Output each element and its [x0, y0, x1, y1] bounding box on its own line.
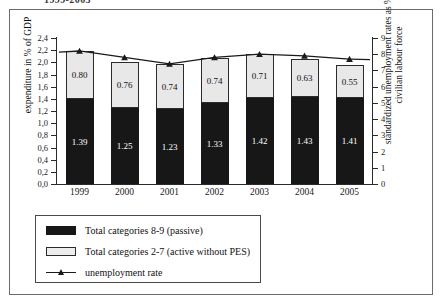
- bar-group[interactable]: 0.761.25: [111, 38, 139, 184]
- chart-figure: 1999-2005 expenditure in % of GDP standa…: [0, 0, 443, 303]
- y-tick-label: 1,8: [37, 71, 48, 79]
- bar-value-label-passive: 1.39: [66, 137, 94, 147]
- y-axis-right-ticks: 0123456789: [373, 0, 413, 303]
- y2-tick-mark: [373, 103, 378, 104]
- legend-label: Total categories 2-7 (active without PES…: [85, 246, 250, 257]
- bar-value-label-active: 0.76: [111, 80, 139, 90]
- bar-group[interactable]: 0.631.43: [291, 38, 319, 184]
- bar-value-label-active: 0.80: [66, 70, 94, 80]
- bar-value-label-active: 0.74: [156, 82, 184, 92]
- x-tick-label: 2002: [193, 187, 237, 197]
- bar-value-label-passive: 1.41: [336, 136, 364, 146]
- y2-tick-mark: [373, 87, 378, 88]
- legend-label: Total categories 8-9 (passive): [85, 225, 203, 236]
- y2-tick-label: 3: [381, 131, 385, 139]
- y2-tick-label: 8: [381, 50, 385, 58]
- bar-group[interactable]: 0.711.42: [246, 38, 274, 184]
- y2-tick-mark: [373, 135, 378, 136]
- legend-item-unemployment: unemployment rate: [46, 264, 162, 280]
- plot-area: 0.801.390.761.250.741.230.741.330.711.42…: [57, 38, 372, 184]
- axis-line-right: [372, 37, 373, 185]
- y-tick-label: 1,6: [37, 83, 48, 91]
- y2-tick-mark: [373, 152, 378, 153]
- light-square-icon: [46, 247, 76, 256]
- chart-legend: Total categories 8-9 (passive) Total cat…: [35, 215, 261, 283]
- bar-value-label-active: 0.55: [336, 77, 364, 87]
- legend-item-active: Total categories 2-7 (active without PES…: [46, 243, 250, 259]
- bar-value-label-active: 0.74: [201, 76, 229, 86]
- bar-value-label-passive: 1.33: [201, 139, 229, 149]
- legend-item-passive: Total categories 8-9 (passive): [46, 222, 203, 238]
- bar-value-label-active: 0.63: [291, 73, 319, 83]
- y-tick-label: 0,2: [37, 168, 48, 176]
- y-tick-label: 1,2: [37, 107, 48, 115]
- x-tick-label: 2003: [238, 187, 282, 197]
- axis-line-bottom: [56, 184, 373, 185]
- bar-group[interactable]: 0.741.33: [201, 38, 229, 184]
- y2-tick-mark: [373, 54, 378, 55]
- y-tick-label: 0,6: [37, 144, 48, 152]
- y2-tick-label: 0: [381, 180, 385, 188]
- legend-label: unemployment rate: [85, 267, 162, 278]
- x-tick-label: 2004: [283, 187, 327, 197]
- y2-tick-label: 1: [381, 164, 385, 172]
- y-tick-label: 2,0: [37, 58, 48, 66]
- bar-group[interactable]: 0.551.41: [336, 38, 364, 184]
- bar-value-label-passive: 1.43: [291, 136, 319, 146]
- y-tick-label: 1,4: [37, 95, 48, 103]
- y2-tick-mark: [373, 119, 378, 120]
- bar-group[interactable]: 0.741.23: [156, 38, 184, 184]
- line-marker-icon: [46, 268, 76, 277]
- y2-tick-mark: [373, 168, 378, 169]
- bar-value-label-passive: 1.23: [156, 142, 184, 152]
- bar-value-label-passive: 1.25: [111, 141, 139, 151]
- y2-tick-label: 5: [381, 99, 385, 107]
- y2-tick-mark: [373, 70, 378, 71]
- y2-tick-label: 2: [381, 148, 385, 156]
- bar-value-label-active: 0.71: [246, 71, 274, 81]
- figure-title: 1999-2005: [44, 0, 244, 6]
- y-tick-label: 2,4: [37, 34, 48, 42]
- y2-tick-label: 9: [381, 34, 385, 42]
- y2-tick-mark: [373, 184, 378, 185]
- x-tick-label: 2005: [328, 187, 372, 197]
- y-tick-label: 2,2: [37, 46, 48, 54]
- y2-tick-label: 6: [381, 83, 385, 91]
- y-tick-label: 0,8: [37, 131, 48, 139]
- dark-square-icon: [46, 226, 76, 235]
- x-tick-label: 1999: [58, 187, 102, 197]
- bar-value-label-passive: 1.42: [246, 136, 274, 146]
- y2-tick-label: 7: [381, 66, 385, 74]
- y-tick-label: 0,4: [37, 156, 48, 164]
- y2-tick-label: 4: [381, 115, 385, 123]
- x-tick-label: 2000: [103, 187, 147, 197]
- bar-group[interactable]: 0.801.39: [66, 38, 94, 184]
- x-tick-label: 2001: [148, 187, 192, 197]
- y-tick-label: 1,0: [37, 119, 48, 127]
- y2-tick-mark: [373, 38, 378, 39]
- y-tick-label: 0,0: [37, 180, 48, 188]
